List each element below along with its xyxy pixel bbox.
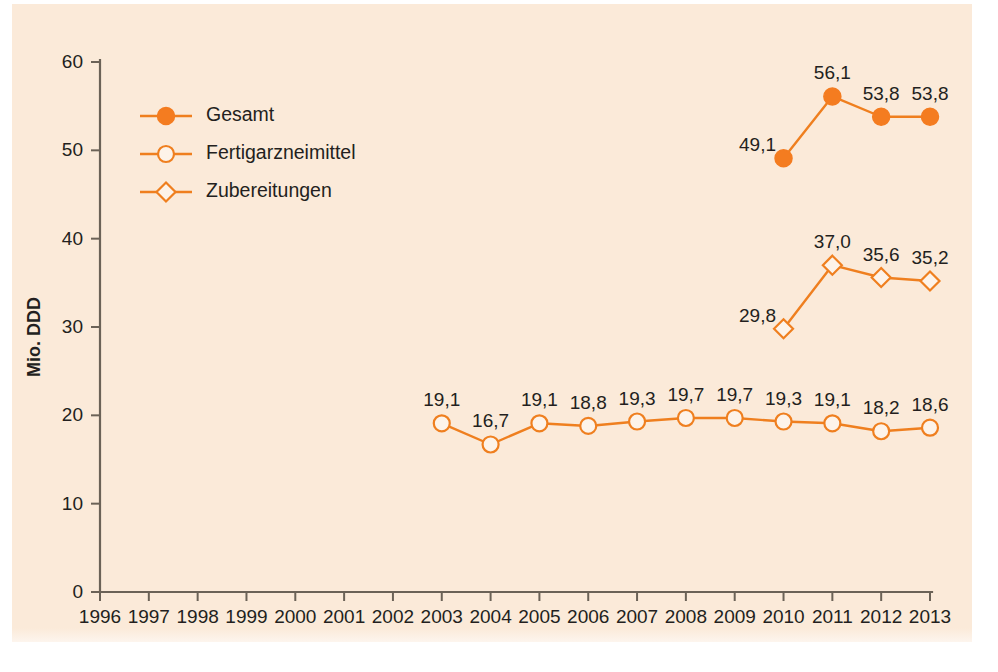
x-axis-tick-label: 2001	[323, 606, 365, 627]
x-axis-tick-label: 1999	[225, 606, 267, 627]
data-point-marker	[629, 414, 645, 430]
chart-legend: GesamtFertigarzneimittelZubereitungen	[140, 103, 356, 201]
data-point-labels: 49,156,153,853,819,116,719,118,819,319,7…	[423, 62, 948, 431]
series-line-gesamt	[784, 96, 930, 158]
data-point-marker	[776, 414, 792, 430]
data-point-label: 19,1	[521, 389, 558, 410]
data-point-label: 19,1	[814, 389, 851, 410]
data-point-label: 49,1	[739, 134, 776, 155]
legend-marker-open-diamond	[157, 183, 176, 202]
data-point-label: 19,3	[619, 388, 656, 409]
y-axis-tick-label: 10	[62, 493, 83, 514]
data-point-label: 53,8	[912, 83, 949, 104]
x-axis-tick-label: 2010	[762, 606, 804, 627]
x-axis-tick-label: 1996	[79, 606, 121, 627]
chart-figure: 0102030405060 19961997199819992000200120…	[0, 0, 998, 672]
data-point-label: 35,2	[912, 247, 949, 268]
data-point-marker	[921, 272, 940, 291]
x-axis-tick-label: 2008	[665, 606, 707, 627]
legend-label[interactable]: Fertigarzneimittel	[206, 141, 356, 163]
data-point-marker	[775, 150, 792, 167]
y-axis-tick-label: 0	[72, 581, 83, 602]
x-axis-tick-label: 1997	[128, 606, 170, 627]
data-point-marker	[873, 108, 890, 125]
x-axis-tick-label: 2006	[567, 606, 609, 627]
y-axis-title-label: Mio. DDD	[24, 297, 44, 377]
y-axis-tick-label: 60	[62, 51, 83, 72]
series-line-zubereitungen	[784, 265, 930, 329]
data-point-label: 35,6	[863, 244, 900, 265]
y-axis-tick-label: 50	[62, 139, 83, 160]
y-axis-tick-label: 30	[62, 316, 83, 337]
x-axis-tick-label: 2000	[274, 606, 316, 627]
data-point-marker	[483, 436, 499, 452]
x-axis-tick-label: 2009	[714, 606, 756, 627]
chart-panel: 0102030405060 19961997199819992000200120…	[12, 4, 972, 642]
x-axis-tick-label: 2005	[518, 606, 560, 627]
data-point-label: 56,1	[814, 62, 851, 83]
data-point-marker	[434, 415, 450, 431]
x-axis-tick-label: 2012	[860, 606, 902, 627]
x-axis-tick-label: 2003	[421, 606, 463, 627]
legend-marker-filled-circle	[158, 108, 175, 125]
y-axis-tick-label: 40	[62, 228, 83, 249]
legend-label[interactable]: Zubereitungen	[206, 179, 332, 201]
data-point-label: 19,3	[765, 388, 802, 409]
x-axis-tick-label: 2011	[812, 606, 853, 627]
data-point-marker	[824, 88, 841, 105]
data-point-marker	[727, 410, 743, 426]
data-point-label: 16,7	[472, 410, 509, 431]
y-axis-title: Mio. DDD	[24, 297, 44, 377]
x-axis-tick-label: 2013	[909, 606, 951, 627]
data-point-marker	[823, 256, 842, 275]
x-axis-tick-label: 2002	[372, 606, 414, 627]
data-point-marker	[774, 319, 793, 338]
data-point-marker	[531, 415, 547, 431]
data-point-marker	[922, 108, 939, 125]
data-point-label: 18,8	[570, 392, 607, 413]
data-point-label: 18,6	[912, 394, 949, 415]
data-point-label: 37,0	[814, 231, 851, 252]
x-axis: 1996199719981999200020012002200320042005…	[79, 592, 951, 627]
data-point-marker	[873, 423, 889, 439]
data-point-marker	[922, 420, 938, 436]
data-point-label: 29,8	[739, 305, 776, 326]
data-point-label: 53,8	[863, 83, 900, 104]
x-axis-tick-label: 1998	[177, 606, 219, 627]
data-point-marker	[678, 410, 694, 426]
data-point-marker	[580, 418, 596, 434]
line-chart-svg: 0102030405060 19961997199819992000200120…	[12, 4, 972, 642]
data-point-marker	[824, 415, 840, 431]
data-point-marker	[872, 268, 891, 287]
data-point-label: 19,7	[716, 384, 753, 405]
data-point-label: 19,1	[423, 389, 460, 410]
x-axis-tick-label: 2007	[616, 606, 658, 627]
legend-label[interactable]: Gesamt	[206, 103, 275, 125]
data-point-label: 19,7	[667, 384, 704, 405]
y-axis-tick-label: 20	[62, 404, 83, 425]
legend-marker-open-circle	[158, 146, 174, 162]
x-axis-tick-label: 2004	[469, 606, 512, 627]
data-point-label: 18,2	[863, 397, 900, 418]
y-axis: 0102030405060	[62, 51, 100, 602]
